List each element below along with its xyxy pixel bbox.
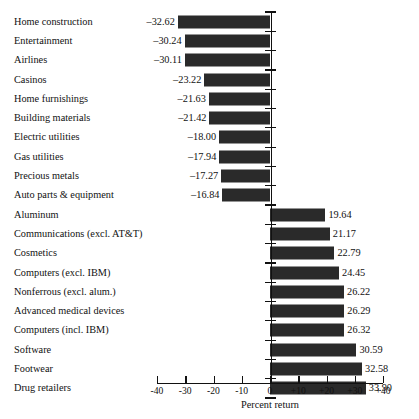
chart-row: Electric utilities–18.00 xyxy=(0,128,419,147)
category-label: Building materials xyxy=(14,113,90,123)
axis-tick xyxy=(270,376,271,383)
chart-row: Aluminum19.64 xyxy=(0,205,419,224)
chart-row: Casinos–23.22 xyxy=(0,70,419,89)
chart-row: Software30.59 xyxy=(0,340,419,359)
value-label: 32.58 xyxy=(365,364,388,374)
chart-row: Gas utilities–17.94 xyxy=(0,147,419,166)
category-label: Home furnishings xyxy=(14,94,88,104)
category-label: Electric utilities xyxy=(14,132,79,142)
category-label: Software xyxy=(14,345,51,355)
chart-row: Computers (excl. IBM)24.45 xyxy=(0,263,419,282)
chart-row: Home furnishings–21.63 xyxy=(0,89,419,108)
bar xyxy=(219,150,270,163)
category-label: Nonferrous (excl. alum.) xyxy=(14,287,116,297)
value-label: 22.79 xyxy=(337,248,360,258)
category-label: Advanced medical devices xyxy=(14,306,124,316)
bar xyxy=(204,73,270,86)
value-label: –30.24 xyxy=(153,36,181,46)
category-label: Gas utilities xyxy=(14,152,63,162)
value-label: 26.22 xyxy=(347,287,370,297)
value-label: 19.64 xyxy=(328,209,351,219)
axis-tick xyxy=(242,376,243,383)
value-label: 24.45 xyxy=(342,267,365,277)
value-label: 26.32 xyxy=(347,325,370,335)
chart-row: Communications (excl. AT&T)21.17 xyxy=(0,224,419,243)
value-label: –32.62 xyxy=(147,16,175,26)
chart-row: Cosmetics22.79 xyxy=(0,244,419,263)
category-label: Cosmetics xyxy=(14,248,57,258)
category-label: Aluminum xyxy=(14,209,59,219)
chart-row: Entertainment–30.24 xyxy=(0,31,419,50)
bar xyxy=(185,54,270,67)
bar xyxy=(222,189,270,202)
category-label: Airlines xyxy=(14,55,47,65)
value-label: –21.42 xyxy=(178,113,206,123)
bar xyxy=(209,92,270,105)
category-label: Entertainment xyxy=(14,36,72,46)
chart-row: Home construction–32.62 xyxy=(0,12,419,31)
axis-tick-label: +40 xyxy=(363,386,403,396)
axis-tick xyxy=(157,376,158,383)
value-label: –18.00 xyxy=(188,132,216,142)
bar xyxy=(270,305,344,318)
axis-tick xyxy=(298,376,299,383)
category-label: Computers (excl. IBM) xyxy=(14,267,110,277)
bar xyxy=(270,285,344,298)
axis-tick xyxy=(185,376,186,383)
chart-row: Advanced medical devices26.29 xyxy=(0,302,419,321)
axis-tick xyxy=(327,376,328,383)
value-label: –23.22 xyxy=(173,74,201,84)
value-label: –21.63 xyxy=(178,94,206,104)
axis-tick xyxy=(383,376,384,383)
bar xyxy=(270,247,334,260)
category-label: Home construction xyxy=(14,16,93,26)
category-label: Auto parts & equipment xyxy=(14,190,114,200)
zero-baseline xyxy=(271,12,273,383)
x-axis-title: Percent return xyxy=(157,400,383,410)
bar xyxy=(270,227,330,240)
axis-tick xyxy=(214,376,215,383)
bar xyxy=(185,34,270,47)
category-label: Footwear xyxy=(14,364,53,374)
axis-tick xyxy=(355,376,356,383)
chart-row: Footwear32.58 xyxy=(0,359,419,378)
value-label: 21.17 xyxy=(333,229,356,239)
chart-row: Airlines–30.11 xyxy=(0,51,419,70)
chart-row: Precious metals–17.27 xyxy=(0,166,419,185)
bar xyxy=(270,208,325,221)
value-label: –17.94 xyxy=(188,152,216,162)
bar xyxy=(270,363,362,376)
chart-row: Auto parts & equipment–16.84 xyxy=(0,186,419,205)
bar xyxy=(270,324,344,337)
bar xyxy=(178,15,270,28)
value-label: 30.59 xyxy=(359,345,382,355)
percent-return-bar-chart: Home construction–32.62Entertainment–30.… xyxy=(0,0,419,419)
plot-area: Home construction–32.62Entertainment–30.… xyxy=(0,0,419,419)
bar xyxy=(221,170,270,183)
category-label: Communications (excl. AT&T) xyxy=(14,229,142,239)
chart-row: Computers (incl. IBM)26.32 xyxy=(0,321,419,340)
category-label: Computers (incl. IBM) xyxy=(14,325,109,335)
chart-row: Building materials–21.42 xyxy=(0,109,419,128)
value-label: –16.84 xyxy=(191,190,219,200)
category-label: Precious metals xyxy=(14,171,79,181)
value-label: 26.29 xyxy=(347,306,370,316)
category-label: Drug retailers xyxy=(14,383,71,393)
bar xyxy=(209,112,270,125)
category-label: Casinos xyxy=(14,74,47,84)
bar xyxy=(270,343,356,356)
chart-row: Nonferrous (excl. alum.)26.22 xyxy=(0,282,419,301)
value-label: –17.27 xyxy=(190,171,218,181)
bar xyxy=(219,131,270,144)
value-label: –30.11 xyxy=(154,55,182,65)
bar xyxy=(270,266,339,279)
